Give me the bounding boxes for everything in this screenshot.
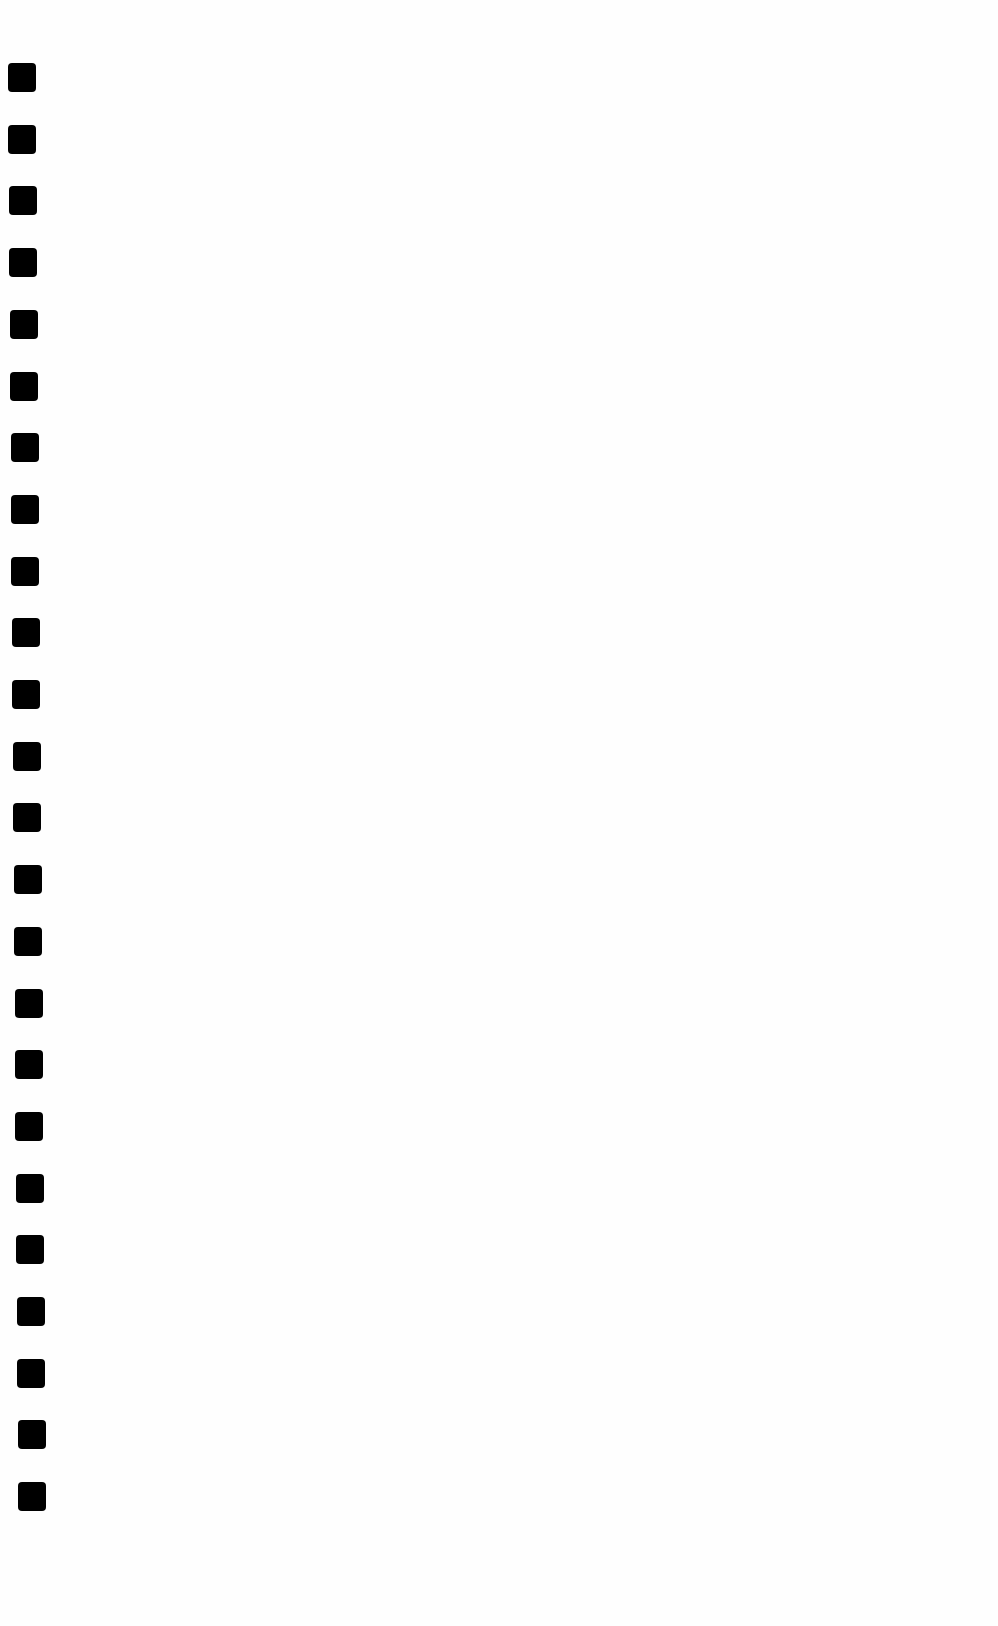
feed-hole <box>16 1235 44 1264</box>
feed-hole <box>15 1050 43 1079</box>
feed-hole <box>9 248 37 277</box>
feed-hole <box>11 433 39 462</box>
feed-hole <box>10 372 38 401</box>
feed-hole <box>13 803 41 832</box>
feed-hole <box>14 927 42 956</box>
feed-hole <box>12 618 40 647</box>
feed-hole <box>13 742 41 771</box>
feed-hole <box>17 1359 45 1388</box>
feed-hole <box>16 1174 44 1203</box>
paper-page <box>0 0 998 1626</box>
feed-hole <box>10 310 38 339</box>
feed-hole <box>12 680 40 709</box>
feed-hole <box>8 63 36 92</box>
feed-hole <box>14 865 42 894</box>
feed-hole <box>17 1297 45 1326</box>
feed-hole <box>18 1482 46 1511</box>
feed-hole <box>15 1112 43 1141</box>
feed-hole <box>11 495 39 524</box>
feed-hole <box>18 1420 46 1449</box>
feed-hole <box>15 989 43 1018</box>
feed-hole <box>9 186 37 215</box>
feed-hole <box>8 125 36 154</box>
feed-hole <box>11 557 39 586</box>
